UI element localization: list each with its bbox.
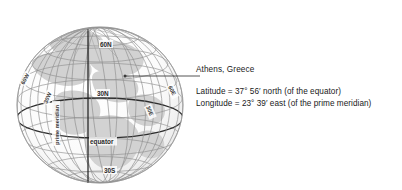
annotation-text-block: Athens, Greece Latitude = 37° 56′ north … [196,64,402,109]
equator-label: equator [90,138,114,146]
latitude-label-60n: 60N [100,41,112,48]
annotation-latitude: Latitude = 37° 56′ north (of the equator… [196,86,402,98]
globe-illustration: 60N 30N 30S 60W 30W 30E [0,0,200,190]
annotation-place-name: Athens, Greece [196,64,402,75]
prime-meridian-label: prime meridian [54,104,60,145]
annotation-spacer [196,75,402,86]
annotation-longitude: Longitude = 23° 39′ east (of the prime m… [196,98,402,110]
latitude-label-30s: 30S [104,167,116,174]
globe-latitude-longitude-figure: 60N 30N 30S 60W 30W 30E [0,0,402,190]
latitude-label-30n: 30N [97,90,109,97]
